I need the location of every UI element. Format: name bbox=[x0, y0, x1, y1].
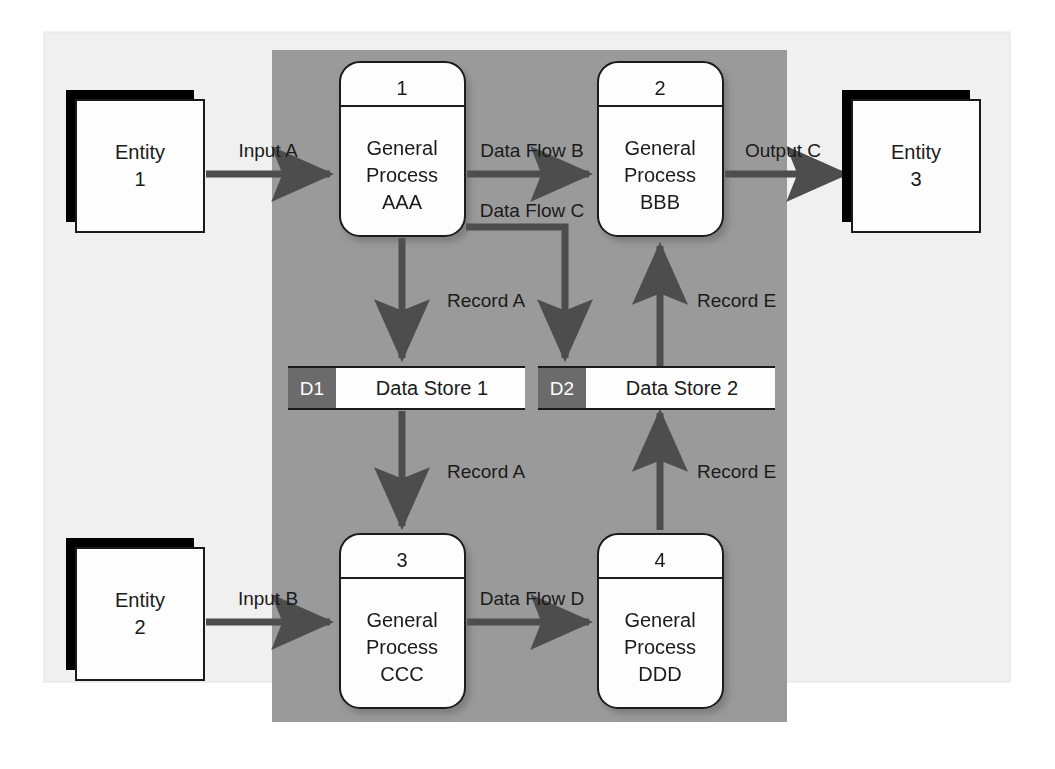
entity-1[interactable]: Entity 1 bbox=[66, 90, 204, 232]
flow-label-input-b: Input B bbox=[238, 588, 298, 609]
process-1[interactable]: 1 General Process AAA bbox=[340, 62, 465, 236]
data-store-2-label: Data Store 2 bbox=[626, 377, 738, 399]
process-4[interactable]: 4 General Process DDD bbox=[598, 534, 723, 708]
process-4-number: 4 bbox=[654, 549, 665, 571]
process-3-label-line1: General bbox=[366, 609, 437, 631]
process-4-label-line1: General bbox=[624, 609, 695, 631]
data-store-1-code: D1 bbox=[300, 378, 324, 399]
flow-label-output-c: Output C bbox=[745, 140, 821, 161]
entity-2[interactable]: Entity 2 bbox=[66, 538, 204, 680]
process-2[interactable]: 2 General Process BBB bbox=[598, 62, 723, 236]
data-store-2[interactable]: D2 Data Store 2 bbox=[538, 367, 775, 409]
process-2-number: 2 bbox=[654, 77, 665, 99]
entity-3[interactable]: Entity 3 bbox=[842, 90, 980, 232]
entity-2-label-line2: 2 bbox=[134, 616, 145, 638]
process-2-label-line3: BBB bbox=[640, 191, 680, 213]
process-2-label-line2: Process bbox=[624, 164, 696, 186]
entity-2-box bbox=[76, 548, 204, 680]
entity-3-label-line1: Entity bbox=[891, 141, 941, 163]
entity-3-label-line2: 3 bbox=[910, 168, 921, 190]
flow-label-record-a-lower: Record A bbox=[447, 461, 525, 482]
process-1-label-line1: General bbox=[366, 137, 437, 159]
flow-label-data-flow-c: Data Flow C bbox=[480, 200, 585, 221]
dfd-canvas: Entity 1 Entity 2 Entity 3 1 General Pro… bbox=[0, 0, 1055, 769]
process-1-label-line2: Process bbox=[366, 164, 438, 186]
flow-label-record-e-lower: Record E bbox=[697, 461, 776, 482]
entity-1-label-line1: Entity bbox=[115, 141, 165, 163]
flow-label-record-e-upper: Record E bbox=[697, 290, 776, 311]
process-3[interactable]: 3 General Process CCC bbox=[340, 534, 465, 708]
flow-label-record-a-upper: Record A bbox=[447, 290, 525, 311]
flow-label-input-a: Input A bbox=[238, 140, 297, 161]
process-4-label-line3: DDD bbox=[638, 663, 681, 685]
process-1-number: 1 bbox=[396, 77, 407, 99]
data-store-1[interactable]: D1 Data Store 1 bbox=[288, 367, 525, 409]
data-store-1-label: Data Store 1 bbox=[376, 377, 488, 399]
process-3-label-line2: Process bbox=[366, 636, 438, 658]
process-1-label-line3: AAA bbox=[382, 191, 423, 213]
process-3-label-line3: CCC bbox=[380, 663, 423, 685]
flow-label-data-flow-b: Data Flow B bbox=[480, 140, 583, 161]
entity-1-box bbox=[76, 100, 204, 232]
process-4-label-line2: Process bbox=[624, 636, 696, 658]
dfd-svg: Entity 1 Entity 2 Entity 3 1 General Pro… bbox=[0, 0, 1055, 769]
flow-label-data-flow-d: Data Flow D bbox=[480, 588, 585, 609]
entity-1-label-line2: 1 bbox=[134, 168, 145, 190]
process-3-number: 3 bbox=[396, 549, 407, 571]
entity-2-label-line1: Entity bbox=[115, 589, 165, 611]
entity-3-box bbox=[852, 100, 980, 232]
process-2-label-line1: General bbox=[624, 137, 695, 159]
data-store-2-code: D2 bbox=[550, 378, 574, 399]
